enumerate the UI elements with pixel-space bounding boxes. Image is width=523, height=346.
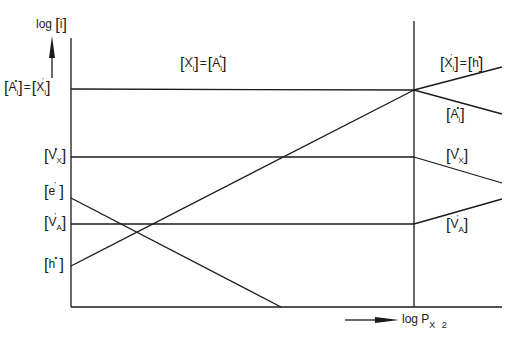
x-axis-arrow-icon [345, 317, 399, 323]
label-va-right: [V'A] [446, 217, 468, 233]
line-e [71, 198, 281, 307]
x-axis-subscript: X 2 [429, 320, 449, 330]
brouwer-diagram [0, 0, 523, 346]
label-ai-eq-xi: [A•i]=[X'i] [4, 80, 50, 96]
label-e: [e' ] [44, 184, 64, 199]
x-axis-label: log PX 2 [402, 312, 449, 326]
y-axis-arrow-icon [49, 36, 55, 78]
region-right-label: [X'i]=[h•] [440, 56, 483, 72]
label-vx: [V•X] [44, 148, 66, 164]
label-h: [h• ] [44, 257, 64, 272]
line-h [71, 90, 414, 266]
label-va: [V'A] [44, 215, 66, 231]
y-axis-label: log [i] [36, 16, 67, 34]
y-axis-prefix: log [36, 17, 52, 31]
label-vx-right: [V•X] [446, 148, 468, 164]
x-axis-prefix: log P [402, 312, 429, 326]
line-ai-xi [71, 89, 414, 90]
region-left-label: [X-i]=[A+i] [180, 56, 226, 72]
label-ai-right: [A•i] [446, 107, 465, 123]
